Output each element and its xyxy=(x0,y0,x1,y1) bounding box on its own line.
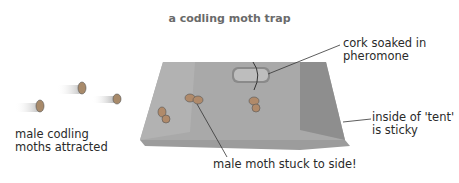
sticky-leader-line xyxy=(343,119,371,122)
sticky-label: inside of 'tent' is sticky xyxy=(372,111,454,137)
attracted-label-line2: moths attracted xyxy=(15,141,108,154)
flying-moths xyxy=(15,82,121,112)
cork-label-line2: pheromone xyxy=(343,50,426,63)
attracted-label: male codling moths attracted xyxy=(15,128,108,154)
cork-label: cork soaked in pheromone xyxy=(343,37,426,63)
stuck-label: male moth stuck to side! xyxy=(213,158,357,171)
sticky-label-line2: is sticky xyxy=(372,124,454,137)
trap-illustration xyxy=(0,0,459,183)
